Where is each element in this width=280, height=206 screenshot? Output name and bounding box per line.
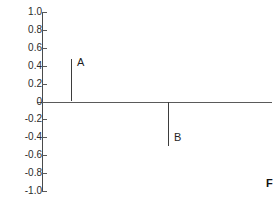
- y-tick-label: -1.0: [8, 186, 42, 196]
- y-tick-mark: [42, 48, 47, 49]
- y-tick-mark: [42, 119, 47, 120]
- impulse-plot: 1.00.80.60.40.20-0.2-0.4-0.6-0.8-1.0 AB …: [0, 0, 280, 206]
- y-tick-mark: [42, 12, 47, 13]
- y-tick-label-wrap: -1.0: [0, 186, 42, 196]
- y-tick-label: -0.8: [8, 168, 42, 178]
- y-tick-mark: [42, 155, 47, 156]
- y-tick-label-wrap: 1.0: [0, 7, 42, 17]
- impulse-stem-a: [71, 59, 72, 101]
- y-tick-mark: [42, 173, 47, 174]
- impulse-label-a: A: [77, 57, 84, 68]
- y-tick-label: 0.2: [8, 79, 42, 89]
- y-tick-label: -0.4: [8, 132, 42, 142]
- y-tick-label: 0.4: [8, 61, 42, 71]
- y-tick-mark: [42, 84, 47, 85]
- x-axis-title: F: [266, 178, 273, 189]
- y-tick-mark: [42, 30, 47, 31]
- y-tick-mark: [42, 191, 47, 192]
- y-tick-label-wrap: -0.6: [0, 150, 42, 160]
- y-tick-label: 1.0: [8, 7, 42, 17]
- y-tick-label: 0.8: [8, 25, 42, 35]
- y-tick-label-wrap: -0.4: [0, 132, 42, 142]
- y-tick-label: 0: [8, 97, 42, 107]
- impulse-stem-b: [168, 102, 169, 146]
- y-tick-label-wrap: 0.6: [0, 43, 42, 53]
- impulse-label-b: B: [174, 132, 181, 143]
- y-tick-mark: [42, 66, 47, 67]
- x-axis-zero-line: [42, 102, 272, 103]
- y-tick-label-wrap: 0.2: [0, 79, 42, 89]
- y-tick-label: 0.6: [8, 43, 42, 53]
- y-tick-label-wrap: 0: [0, 97, 42, 107]
- y-tick-mark: [42, 137, 47, 138]
- y-tick-label-wrap: 0.8: [0, 25, 42, 35]
- y-tick-label-wrap: 0.4: [0, 61, 42, 71]
- y-tick-label-wrap: -0.8: [0, 168, 42, 178]
- y-tick-label: -0.6: [8, 150, 42, 160]
- y-tick-label: -0.2: [8, 114, 42, 124]
- y-tick-label-wrap: -0.2: [0, 114, 42, 124]
